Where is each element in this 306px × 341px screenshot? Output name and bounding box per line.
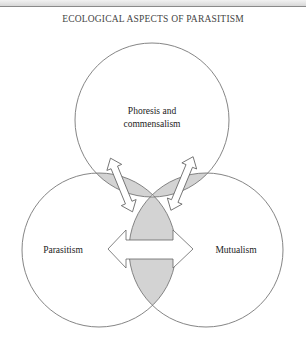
label-mutualism: Mutualism — [215, 245, 257, 255]
venn-diagram: Phoresis and commensalism Parasitism Mut… — [0, 0, 306, 341]
label-parasitism: Parasitism — [43, 245, 83, 255]
label-phoresis-line2: commensalism — [124, 119, 182, 129]
label-phoresis-line1: Phoresis and — [128, 106, 177, 116]
